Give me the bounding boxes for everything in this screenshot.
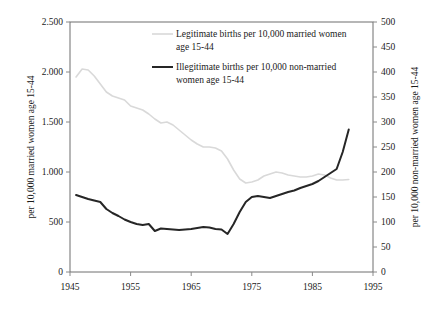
chart-canvas: 05001.0001.5002.0002.5000501001502002503…	[0, 0, 441, 315]
y-axis-tick-label: 1.500	[42, 117, 64, 127]
y2-axis-tick-label: 250	[381, 142, 396, 152]
y2-axis-title: per 10,000 non-married women age 15-44	[410, 67, 420, 228]
x-axis-tick-label: 1975	[242, 282, 261, 292]
y2-axis-tick-label: 100	[381, 217, 396, 227]
legend-item-illegitimate-label-line1: Illegitimate births per 10,000 non-marri…	[176, 62, 336, 72]
y2-axis-tick-label: 350	[381, 92, 396, 102]
birth-rates-line-chart: 05001.0001.5002.0002.5000501001502002503…	[0, 0, 441, 315]
y2-axis-tick-label: 500	[381, 17, 396, 27]
x-axis-tick-label: 1995	[364, 282, 383, 292]
series-line-legitimate	[76, 69, 349, 183]
x-axis-tick-label: 1955	[121, 282, 140, 292]
y2-axis-tick-label: 150	[381, 192, 396, 202]
series-line-illegitimate	[76, 130, 349, 235]
y-axis-tick-label: 1.000	[42, 167, 64, 177]
x-axis-tick-label: 1965	[182, 282, 201, 292]
y-axis-tick-label: 500	[49, 217, 64, 227]
y2-axis-tick-label: 50	[381, 242, 391, 252]
legend-item-legitimate-label-line2: age 15-44	[176, 42, 214, 52]
legend-item-illegitimate-label-line2: women age 15-44	[176, 75, 244, 85]
y-axis-tick-label: 2.000	[42, 67, 64, 77]
y-axis-tick-label: 2.500	[42, 17, 64, 27]
plot-area-frame	[70, 22, 373, 272]
y2-axis-tick-label: 450	[381, 42, 396, 52]
y2-axis-tick-label: 400	[381, 67, 396, 77]
legend-item-legitimate-label-line1: Legitimate births per 10,000 married wom…	[176, 29, 347, 39]
x-axis-tick-label: 1945	[61, 282, 80, 292]
x-axis-tick-label: 1985	[303, 282, 322, 292]
y2-axis-tick-label: 200	[381, 167, 396, 177]
y2-axis-tick-label: 0	[381, 267, 386, 277]
y-axis-title: per 10,000 married women age 15-44	[26, 75, 36, 218]
y2-axis-tick-label: 300	[381, 117, 396, 127]
y-axis-tick-label: 0	[58, 267, 63, 277]
